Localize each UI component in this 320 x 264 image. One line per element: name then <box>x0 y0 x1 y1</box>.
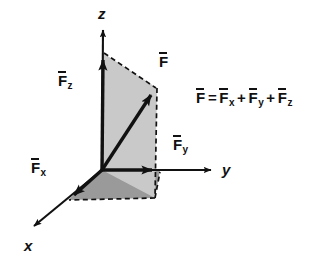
equation-term2-symbol: Fy <box>249 88 264 108</box>
vector-diagram-figure: z y x F Fz Fx Fy F=Fx+Fy+Fz <box>0 0 320 264</box>
fz-vector-arrow <box>102 60 103 170</box>
resultant-vector-symbol: F <box>159 52 168 69</box>
z-axis-label: z <box>98 6 106 21</box>
equation-term3-symbol: Fz <box>278 88 293 108</box>
equation-equals-sign: = <box>208 90 217 105</box>
y-axis-label: y <box>222 162 230 177</box>
resultant-vector-label: F <box>159 52 168 70</box>
fz-vector-label: Fz <box>58 71 72 91</box>
equation-term1-symbol: Fx <box>219 88 234 108</box>
fz-vector-symbol: Fz <box>58 71 72 91</box>
fx-vector-label: Fx <box>31 158 46 178</box>
fy-vector-symbol: Fy <box>173 135 188 155</box>
fx-vector-symbol: Fx <box>31 158 46 178</box>
fy-vector-label: Fy <box>173 135 188 155</box>
vector-diagram-canvas <box>0 0 320 264</box>
equation-lhs-symbol: F <box>196 88 205 105</box>
vector-sum-equation: F=Fx+Fy+Fz <box>196 88 292 108</box>
x-axis-label: x <box>24 238 32 253</box>
equation-plus-sign-1: + <box>237 90 246 105</box>
equation-plus-sign-2: + <box>266 90 275 105</box>
